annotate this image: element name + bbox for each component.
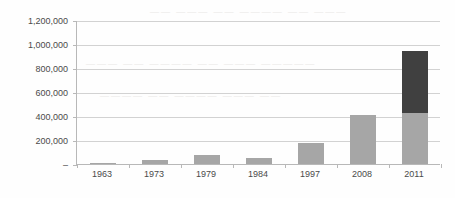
bar-group[interactable] — [350, 20, 376, 164]
x-axis-tick-mark — [441, 164, 442, 168]
bar-group[interactable] — [298, 20, 324, 164]
x-axis: 1963197319791984199720082011 — [76, 167, 440, 187]
bar-group[interactable] — [142, 20, 168, 164]
y-axis-tick-label: 800,000 — [35, 64, 68, 74]
x-axis-tick-label: 1963 — [92, 169, 112, 179]
bar-segment[interactable] — [402, 51, 428, 113]
x-axis-tick-label: 1979 — [196, 169, 216, 179]
x-axis-tick-label: 1997 — [300, 169, 320, 179]
bar-segment[interactable] — [298, 143, 324, 164]
y-axis-tick-label: 1,200,000 — [28, 16, 68, 26]
bar-segment[interactable] — [142, 160, 168, 164]
x-axis-tick-label: 2008 — [352, 169, 372, 179]
y-axis-tick-label: 400,000 — [35, 112, 68, 122]
bar-segment[interactable] — [246, 158, 272, 164]
x-axis-tick-label: 2011 — [404, 169, 423, 179]
x-axis-tick-label: 1973 — [144, 169, 164, 179]
bar-chart-figure: ——— —— ———— —— ——— ————— ———— —— ———— ——… — [0, 0, 455, 198]
bars-layer — [77, 21, 440, 164]
bar-group[interactable] — [402, 20, 428, 164]
plot-wrapper: –200,000400,000600,000800,0001,000,0001,… — [0, 0, 455, 198]
bar-segment[interactable] — [90, 163, 116, 164]
y-axis-tick-label: 200,000 — [35, 136, 68, 146]
bar-group[interactable] — [194, 20, 220, 164]
bar-segment[interactable] — [194, 155, 220, 164]
y-axis: –200,000400,000600,000800,0001,000,0001,… — [0, 0, 74, 170]
plot-area — [76, 21, 440, 165]
y-axis-tick-label: 600,000 — [35, 88, 68, 98]
bar-segment[interactable] — [402, 113, 428, 164]
bar-group[interactable] — [246, 20, 272, 164]
bar-segment[interactable] — [350, 115, 376, 164]
bar-group[interactable] — [90, 20, 116, 164]
x-axis-tick-label: 1984 — [248, 169, 268, 179]
y-axis-tick-label: 1,000,000 — [28, 40, 68, 50]
y-axis-tick-label: – — [63, 160, 68, 170]
